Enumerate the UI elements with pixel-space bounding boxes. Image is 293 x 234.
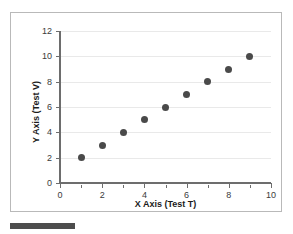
y-tick [56, 82, 60, 83]
gridline [60, 82, 271, 83]
x-tick-minor [166, 185, 167, 188]
data-point [78, 154, 85, 161]
y-tick [56, 31, 60, 32]
y-tick-label: 0 [47, 178, 52, 188]
data-point [225, 66, 232, 73]
data-point [141, 116, 148, 123]
y-tick-label: 2 [47, 153, 52, 163]
y-tick [56, 56, 60, 57]
x-tick-major [102, 183, 103, 188]
y-tick [56, 107, 60, 108]
x-tick-minor [123, 185, 124, 188]
y-tick [56, 183, 60, 184]
data-point [246, 53, 253, 60]
gridline [60, 132, 271, 133]
x-tick-minor [81, 185, 82, 188]
plot-area: 0246810 024681012 [60, 31, 271, 183]
x-tick-major [144, 183, 145, 188]
data-point [99, 142, 106, 149]
gridline [60, 158, 271, 159]
y-tick-label: 4 [47, 127, 52, 137]
data-point [162, 104, 169, 111]
bottom-accent-bar [10, 223, 75, 229]
x-tick-minor [208, 185, 209, 188]
gridline [60, 56, 271, 57]
y-tick-label: 12 [42, 26, 52, 36]
x-tick-major [271, 183, 272, 188]
data-point [120, 129, 127, 136]
y-tick-label: 6 [47, 102, 52, 112]
y-tick-label: 10 [42, 51, 52, 61]
gridline [60, 31, 271, 32]
x-axis-spine [59, 182, 271, 184]
x-tick-minor [250, 185, 251, 188]
x-tick-major [229, 183, 230, 188]
y-axis-title: Y Axis (Test V) [31, 36, 41, 188]
y-tick-label: 8 [47, 77, 52, 87]
data-point [204, 78, 211, 85]
x-tick-major [60, 183, 61, 188]
x-axis-title: X Axis (Test T) [60, 199, 271, 209]
x-tick-major [187, 183, 188, 188]
chart-figure: 0246810 024681012 X Axis (Test T) Y Axis… [10, 12, 282, 212]
y-tick [56, 132, 60, 133]
data-point [183, 91, 190, 98]
y-tick [56, 158, 60, 159]
